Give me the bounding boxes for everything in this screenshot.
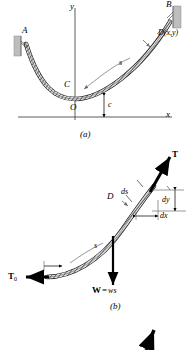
label-weight-value: ws: [108, 286, 116, 295]
figure-root: A B y x D(x,y) C O s c (a): [0, 0, 195, 350]
label-dy: dy: [162, 196, 170, 204]
label-tension-zero-subscript: 0: [14, 276, 17, 282]
label-dx: dx: [160, 212, 168, 220]
label-theta: θ: [160, 168, 164, 176]
panel-b-graphics: [0, 0, 195, 350]
label-arc-length-b: s: [94, 242, 97, 250]
label-weight: W=ws: [92, 286, 117, 295]
label-weight-symbol: W: [92, 285, 101, 295]
partial-arrow-icon: [146, 330, 154, 350]
caption-panel-b: (b): [110, 302, 121, 311]
label-point-d-b: D: [107, 192, 114, 201]
cable-centerline-b: [47, 186, 154, 277]
label-tension-t: T: [172, 150, 178, 159]
theta-arc: [167, 186, 170, 190]
label-ds: ds: [121, 188, 128, 196]
d-leader-b: [122, 201, 128, 206]
cable-chain-b: [47, 186, 154, 277]
cable-outer-b: [47, 186, 154, 277]
label-point-c-b: C: [34, 272, 40, 281]
label-tension-zero: T0: [8, 272, 17, 282]
s-leader-curve-b: [70, 243, 103, 263]
ds-tick-upper: [137, 180, 143, 187]
ds-tick-lower: [126, 195, 132, 202]
